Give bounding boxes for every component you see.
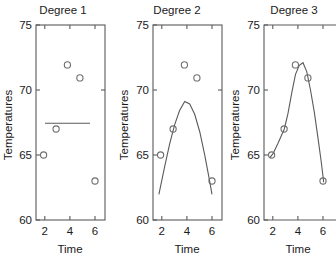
figure-polynomial-fits: Degree 1 75 70 65 60 Temperatures [0, 0, 336, 265]
plot-frame [264, 25, 336, 220]
plot-svg-degree-3: Degree 3 75 70 65 60 Temperatures [222, 0, 336, 265]
panel-title: Degree 3 [270, 4, 317, 16]
y-tick-label-65: 65 [19, 149, 32, 161]
x-axis-tick-labels: 2 4 6 [159, 225, 216, 237]
y-tick-label-60: 60 [247, 214, 260, 226]
y-tick-label-70: 70 [247, 84, 260, 96]
data-point [158, 152, 164, 158]
x-axis-label: Time [285, 243, 310, 255]
y-tick-label-60: 60 [19, 214, 32, 226]
plot-frame [36, 25, 105, 220]
y-axis-label: Temperatures [229, 90, 241, 161]
panel-title: Degree 2 [153, 4, 200, 16]
y-tick-label-75: 75 [247, 19, 260, 31]
y-tick-label-70: 70 [19, 84, 32, 96]
x-tick-label-4: 4 [295, 225, 302, 237]
y-tick-label-75: 75 [136, 19, 149, 31]
data-point [53, 126, 59, 132]
x-axis-label: Time [174, 243, 199, 255]
data-point-markers [269, 62, 327, 184]
x-axis-tick-labels: 2 4 6 [42, 225, 99, 237]
y-tick-label-65: 65 [247, 149, 260, 161]
y-tick-label-60: 60 [136, 214, 149, 226]
x-tick-label-6: 6 [92, 225, 98, 237]
data-point [77, 75, 83, 81]
x-tick-label-4: 4 [184, 225, 191, 237]
panel-title: Degree 1 [39, 4, 86, 16]
data-point [194, 75, 200, 81]
data-point [292, 62, 298, 68]
data-point [41, 152, 47, 158]
y-axis-ticks [264, 25, 268, 220]
fit-curve-degree-2 [159, 101, 212, 194]
y-tick-label-65: 65 [136, 149, 149, 161]
fit-curve-degree-3 [270, 63, 324, 183]
x-axis-label: Time [57, 243, 82, 255]
data-point [92, 178, 98, 184]
chart-panel-degree-3: Degree 3 75 70 65 60 Temperatures [222, 0, 336, 265]
x-tick-label-2: 2 [270, 225, 276, 237]
x-tick-label-6: 6 [209, 225, 215, 237]
data-point [181, 62, 187, 68]
x-tick-label-6: 6 [320, 225, 326, 237]
plot-svg-degree-1: Degree 1 75 70 65 60 Temperatures [0, 0, 112, 265]
x-axis-ticks [162, 25, 212, 220]
x-axis-tick-labels: 2 4 6 [270, 225, 327, 237]
data-point [64, 62, 70, 68]
x-tick-label-2: 2 [42, 225, 48, 237]
plot-svg-degree-2: Degree 2 75 70 65 60 Temperatures [110, 0, 224, 265]
y-tick-label-75: 75 [19, 19, 32, 31]
chart-panel-degree-2: Degree 2 75 70 65 60 Temperatures [110, 0, 224, 265]
y-axis-tick-labels: 75 70 65 60 [247, 19, 260, 226]
y-axis-ticks [36, 25, 105, 220]
x-tick-label-4: 4 [67, 225, 74, 237]
chart-panel-degree-1: Degree 1 75 70 65 60 Temperatures [0, 0, 112, 265]
y-axis-tick-labels: 75 70 65 60 [19, 19, 32, 226]
y-axis-label: Temperatures [118, 90, 130, 161]
y-axis-label: Temperatures [2, 90, 14, 161]
y-tick-label-70: 70 [136, 84, 149, 96]
x-axis-ticks [45, 25, 95, 220]
x-tick-label-2: 2 [159, 225, 165, 237]
y-axis-tick-labels: 75 70 65 60 [136, 19, 149, 226]
